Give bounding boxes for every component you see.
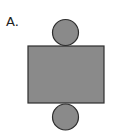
bottom-circle [53, 104, 79, 130]
cylinder-net-diagram [0, 0, 115, 136]
top-circle [53, 20, 79, 46]
lateral-rectangle [28, 46, 104, 103]
